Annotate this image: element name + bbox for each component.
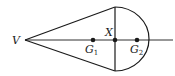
label-g1: G1 [85,43,98,57]
point-g2 [135,38,140,43]
cone-upper-edge [25,7,115,40]
cone-lower-edge [25,40,115,71]
diagram-canvas: V X G1 G2 [0,0,175,76]
point-x [113,38,118,43]
label-g2: G2 [130,43,143,57]
point-g1 [91,38,96,43]
label-x: X [104,26,114,39]
cone-hemisphere-diagram: V X G1 G2 [0,0,175,76]
label-v: V [12,34,21,47]
hemisphere-arc [115,7,149,71]
